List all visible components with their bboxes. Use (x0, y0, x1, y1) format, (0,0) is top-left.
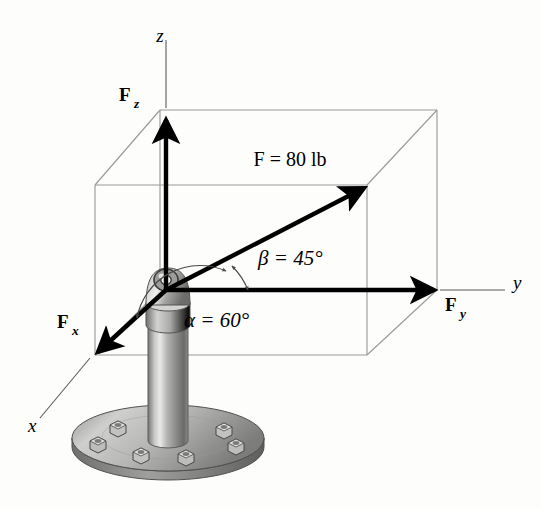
post-assembly (72, 268, 264, 480)
force-label-Fy-base: F (445, 294, 457, 315)
force-label-Fz-base: F (119, 84, 131, 105)
angle-label-beta: β = 45° (257, 246, 323, 270)
bolt-nut (228, 439, 244, 455)
bolt-nut (216, 423, 232, 439)
bolt-nut (90, 437, 106, 453)
angle-arc-beta (232, 266, 248, 290)
force-label-Fx-base: F (57, 311, 69, 332)
force-label-Fx-sub: x (71, 323, 79, 338)
force-magnitude-label: F = 80 lb (254, 148, 327, 170)
force-label-Fy-sub: y (458, 306, 467, 321)
z-axis-label: z (155, 25, 164, 46)
x-axis-line (40, 358, 90, 418)
bolt-nut (110, 421, 126, 437)
figure-root: z y x F z F y F x F = 80 lb β = 45° α = … (0, 0, 541, 509)
force-vector-F (166, 188, 364, 290)
x-axis-label: x (27, 415, 37, 436)
force-label-Fz: F z (119, 84, 140, 111)
axis-lines (40, 40, 505, 418)
bolt-nut (178, 450, 194, 466)
force-label-Fz-sub: z (133, 96, 140, 111)
y-axis-label: y (511, 272, 522, 293)
force-label-Fx: F x (57, 311, 79, 338)
force-diagram: z y x F z F y F x F = 80 lb β = 45° α = … (0, 0, 541, 509)
angle-label-alpha: α = 60° (184, 308, 250, 332)
post-cylinder (148, 323, 188, 448)
force-label-Fy: F y (445, 294, 467, 321)
bolt-nut (133, 448, 149, 464)
